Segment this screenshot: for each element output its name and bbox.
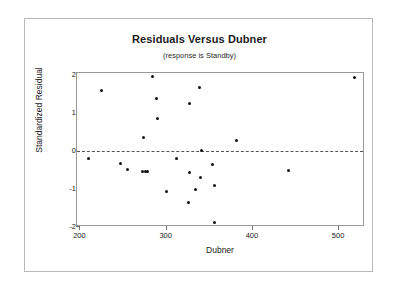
y-axis-ticks: 210-1-2 bbox=[58, 72, 76, 226]
zero-reference-line bbox=[77, 151, 363, 152]
data-point bbox=[199, 176, 202, 179]
y-tick-label: 1 bbox=[62, 107, 76, 116]
x-tick-label: 300 bbox=[159, 231, 172, 240]
y-tick-label: -1 bbox=[62, 183, 76, 192]
data-point bbox=[213, 221, 216, 224]
x-tick-label: 200 bbox=[73, 231, 86, 240]
x-axis-ticks: 200300400500 bbox=[76, 226, 364, 242]
data-point bbox=[156, 117, 159, 120]
data-point bbox=[213, 184, 216, 187]
data-point bbox=[200, 149, 203, 152]
chart-screenshot: Residuals Versus Dubner (response is Sta… bbox=[0, 0, 394, 290]
data-point bbox=[165, 190, 168, 193]
data-point bbox=[175, 157, 178, 160]
x-axis-title: Dubner bbox=[76, 245, 364, 255]
data-point bbox=[151, 75, 154, 78]
data-point bbox=[287, 169, 290, 172]
data-point bbox=[211, 163, 214, 166]
data-point bbox=[146, 170, 149, 173]
data-point bbox=[187, 201, 190, 204]
y-tick-label: 2 bbox=[62, 69, 76, 78]
chart-subtitle: (response is Standby) bbox=[25, 51, 374, 60]
data-point bbox=[194, 188, 197, 191]
x-tick-mark bbox=[252, 226, 253, 230]
data-point bbox=[198, 86, 201, 89]
x-tick-label: 500 bbox=[332, 231, 345, 240]
data-point bbox=[142, 136, 145, 139]
chart-card: Residuals Versus Dubner (response is Sta… bbox=[24, 18, 373, 272]
data-point bbox=[235, 139, 238, 142]
y-axis-title: Standardized Residual bbox=[34, 50, 44, 170]
data-point bbox=[188, 102, 191, 105]
chart-title: Residuals Versus Dubner bbox=[25, 33, 374, 45]
x-tick-mark bbox=[79, 226, 80, 230]
data-point bbox=[126, 168, 129, 171]
y-tick-label: 0 bbox=[62, 145, 76, 154]
y-tick-label: -2 bbox=[62, 222, 76, 231]
data-point bbox=[155, 97, 158, 100]
x-tick-label: 400 bbox=[246, 231, 259, 240]
data-point bbox=[188, 171, 191, 174]
data-point bbox=[100, 89, 103, 92]
data-point bbox=[119, 162, 122, 165]
x-tick-mark bbox=[338, 226, 339, 230]
data-point bbox=[87, 157, 90, 160]
data-point bbox=[353, 76, 356, 79]
x-tick-mark bbox=[166, 226, 167, 230]
plot-area bbox=[76, 72, 364, 226]
